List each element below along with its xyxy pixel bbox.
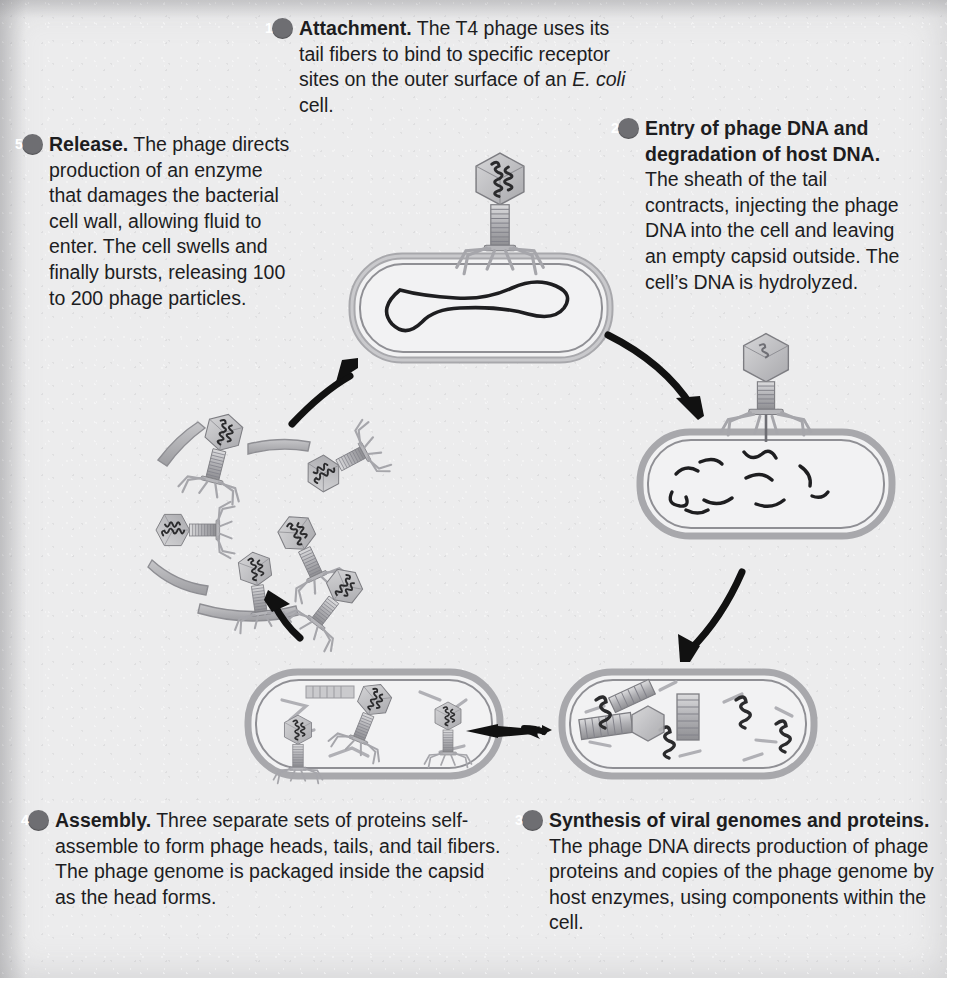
step-2-caption: 2Entry of phage DNA and degradation of h… [618,116,913,295]
step-5-title: Release. [49,133,128,155]
step-1-species: E. coli [572,68,625,90]
arrow-step2-to-step3 [678,572,742,662]
arrow-step1-to-step2 [608,335,704,420]
step-1-caption: 1Attachment. The T4 phage uses its tail … [272,16,629,118]
step-2-body: The sheath of the tail contracts, inject… [645,168,899,292]
step-1-body-b: cell. [299,94,334,116]
step-4-caption: 4Assembly. Three separate sets of protei… [28,808,507,910]
step-2-badge: 2 [618,118,639,139]
step-3-body: The phage DNA directs production of phag… [549,835,934,934]
step-3-caption: 3Synthesis of viral genomes and proteins… [522,808,949,936]
step-1-title: Attachment. [299,17,412,39]
illustration-step4 [248,672,500,783]
step-5-caption: 5Release. The phage directs production o… [22,132,299,311]
illustration-step5 [148,407,393,655]
illustration-step2 [640,334,892,536]
step-3-badge: 3 [522,810,543,831]
step-2-title: Entry of phage DNA and degradation of ho… [645,117,880,165]
illustration-step3 [562,672,814,776]
step-1-badge: 1 [272,18,293,39]
step-5-body: The phage directs production of an enzym… [49,133,289,309]
figure-page: 1Attachment. The T4 phage uses its tail … [0,0,947,978]
illustration-step1 [352,153,610,360]
step-5-badge: 5 [22,134,43,155]
step-3-title: Synthesis of viral genomes and proteins. [549,809,929,831]
step-4-badge: 4 [28,810,49,831]
step-4-title: Assembly. [55,809,151,831]
arrow-step5-to-step1 [292,358,358,424]
